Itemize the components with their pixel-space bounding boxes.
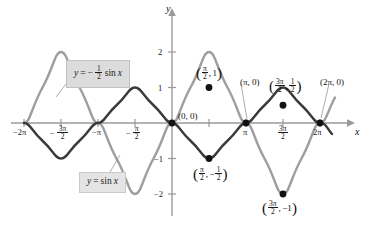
fraction-denominator: 2 [279, 133, 286, 141]
minus-sign: − [50, 129, 55, 138]
x-tick-label-neg-2pi: −2π [13, 128, 26, 137]
point-3pi-over-2-half [280, 102, 287, 109]
y-axis-label: y [166, 3, 170, 14]
point-pi-zero [243, 120, 250, 127]
fraction-denominator: 2 [269, 208, 276, 216]
comma: , [286, 82, 288, 91]
minus-sign: − [210, 170, 215, 179]
leader-line-pi-zero [241, 84, 247, 119]
comma: , [209, 69, 211, 78]
point-pi-over-2-one [206, 84, 213, 91]
sine-transformation-graph-figure: y x 2 1 −1 −2 −2π − 3π 2 −π − π 2 π 3π 2 [0, 0, 377, 227]
comma: , [206, 170, 208, 179]
fraction-denominator: 2 [199, 174, 206, 182]
callout-neg-half-sin-label: y = − 1 2 sin x [66, 60, 130, 88]
open-paren: ( [269, 81, 274, 92]
y-tick-label-1: 1 [158, 84, 162, 93]
y-tick-label-2: 2 [158, 48, 162, 57]
point-3pi-over-2-neg-one [280, 191, 287, 198]
x-tick-label-neg-pi: −π [92, 128, 101, 137]
point-label-3pi-over-2-neg-one: ( 3π 2 , −1 ) [262, 200, 297, 217]
leader-line-neg-half-sin [56, 84, 66, 97]
open-paren: ( [196, 68, 201, 79]
value-fraction-denominator: 2 [215, 174, 222, 182]
point-label-origin: (0, 0) [178, 112, 198, 121]
point-label-pi-over-2-neg-half: ( π 2 , − 1 2 ) [193, 166, 227, 183]
fraction-denominator: 2 [276, 86, 283, 94]
variable-x: x [118, 69, 122, 79]
callout-sin-label: y = sin x [79, 172, 126, 193]
x-tick-label-neg-pi-over-2: − π 2 [126, 125, 141, 142]
x-tick-label-neg-3pi-over-2: − 3π 2 [50, 125, 68, 142]
y-tick-label-neg-2: −2 [154, 190, 163, 199]
sin-function: sin [105, 69, 116, 79]
variable-y: y [87, 177, 91, 187]
variable-y: y [74, 69, 78, 79]
fraction-denominator: 2 [202, 73, 209, 81]
x-axis-label: x [355, 126, 359, 137]
comma: , [279, 204, 281, 213]
open-paren: ( [262, 203, 267, 214]
point-two-pi-zero [317, 120, 324, 127]
fraction-denominator: 2 [59, 133, 66, 141]
point-pi-over-2-neg-half [206, 155, 213, 162]
close-paren: ) [297, 81, 302, 92]
point-label-two-pi-zero: (2π, 0) [320, 78, 344, 87]
point-label-pi-zero: (π, 0) [240, 78, 260, 87]
minus-sign: − [126, 129, 131, 138]
fraction-denominator: 2 [133, 133, 140, 141]
close-paren: ) [292, 203, 297, 214]
fraction-denominator: 2 [95, 73, 102, 81]
point-label-3pi-over-2-half: ( 3π 2 , 1 2 ) [269, 78, 302, 95]
sin-function: sin [101, 177, 112, 187]
x-tick-label-2pi: 2π [313, 128, 322, 137]
close-paren: ) [222, 169, 227, 180]
equals-sign: = [80, 69, 85, 79]
value-fraction-denominator: 2 [289, 86, 296, 94]
open-paren: ( [193, 169, 198, 180]
point-origin [169, 120, 176, 127]
x-tick-label-3pi-over-2: 3π 2 [277, 125, 289, 142]
point-label-pi-over-2-one: ( π 2 , 1 ) [196, 65, 222, 82]
variable-x: x [114, 177, 118, 187]
equals-sign: = [93, 177, 98, 187]
x-tick-label-pi: π [243, 128, 247, 137]
x-axis-arrowhead [347, 119, 355, 127]
y-value: −1 [282, 204, 292, 213]
close-paren: ) [217, 68, 222, 79]
minus-sign: − [88, 69, 93, 79]
y-tick-label-neg-1: −1 [154, 155, 163, 164]
